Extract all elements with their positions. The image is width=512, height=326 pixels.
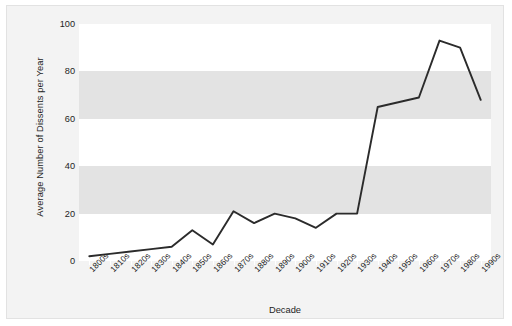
y-tick-label: 40 (49, 161, 75, 171)
y-tick-label: 100 (49, 19, 75, 29)
y-tick-label: 80 (49, 66, 75, 76)
y-tick-label: 60 (49, 114, 75, 124)
plot-area (79, 24, 491, 261)
dissents-line (89, 41, 480, 257)
data-line-series (79, 24, 491, 261)
chart-figure: Average Number of Dissents per Year 0204… (6, 5, 504, 319)
y-axis-tick-labels: 020406080100 (43, 6, 75, 318)
y-tick-label: 0 (49, 256, 75, 266)
x-axis-title: Decade (79, 305, 491, 315)
x-axis-tick-labels: 1800s1810s1820s1830s1840s1850s1860s1870s… (79, 261, 491, 269)
y-tick-label: 20 (49, 209, 75, 219)
